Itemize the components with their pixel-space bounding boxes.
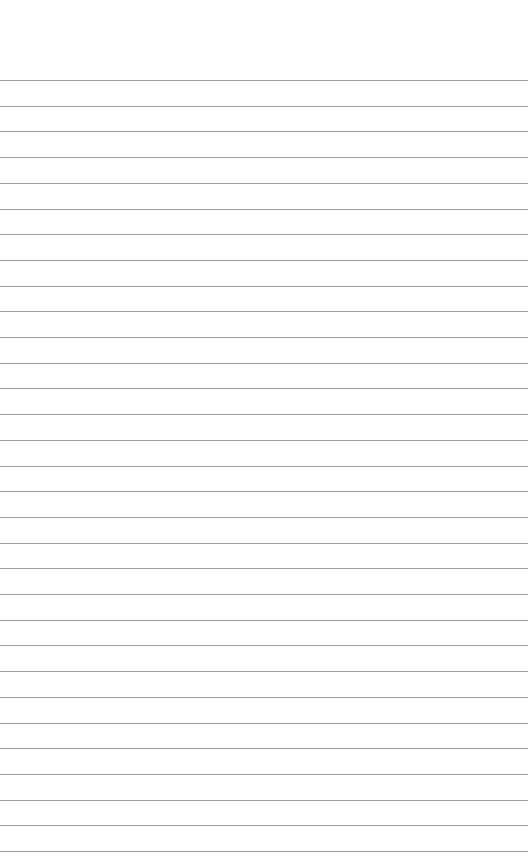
ruled-line [0,106,528,107]
ruled-line [0,388,528,389]
ruled-line [0,748,528,749]
ruled-line [0,774,528,775]
ruled-line [0,414,528,415]
ruled-line [0,234,528,235]
ruled-line [0,286,528,287]
ruled-line [0,466,528,467]
ruled-line [0,80,528,81]
ruled-line [0,491,528,492]
ruled-line [0,209,528,210]
ruled-line [0,620,528,621]
ruled-line [0,543,528,544]
ruled-line [0,594,528,595]
ruled-line [0,337,528,338]
ruled-line [0,131,528,132]
ruled-line [0,671,528,672]
ruled-line [0,517,528,518]
ruled-line [0,723,528,724]
ruled-line [0,800,528,801]
ruled-line [0,311,528,312]
ruled-line [0,568,528,569]
ruled-line [0,363,528,364]
ruled-line [0,697,528,698]
ruled-line [0,260,528,261]
ruled-line [0,157,528,158]
ruled-line [0,440,528,441]
ruled-line [0,183,528,184]
ruled-line [0,825,528,826]
lined-paper [0,0,530,864]
ruled-line [0,645,528,646]
ruled-line [0,851,528,852]
